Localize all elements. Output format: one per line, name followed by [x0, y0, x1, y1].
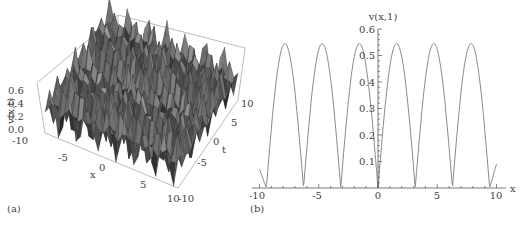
x-tick: 5 [140, 179, 146, 190]
y-tick: 0.4 [359, 77, 375, 88]
x-axis-label: x [90, 169, 96, 180]
x-axis-label: x [510, 183, 516, 194]
surface-plot: 0.6 0.4 0.2 0.0 v(x,t) -10 -5 0 5 10 x 1… [0, 0, 255, 225]
t-tick: 0 [213, 136, 219, 147]
panel-label-a: (a) [7, 203, 21, 214]
y-tick: 0.5 [359, 50, 375, 61]
surface-mesh [45, 0, 238, 186]
t-tick: -10 [178, 193, 194, 204]
y-tick: 0.1 [359, 156, 375, 167]
x-tick: 5 [434, 190, 440, 201]
line-chart: -10 -5 0 5 10 x 0.1 0.2 0.3 0.4 0.5 0.6 … [250, 0, 521, 225]
t-tick: -5 [197, 157, 207, 168]
t-tick: 5 [231, 117, 237, 128]
t-axis-label: t [222, 144, 226, 155]
z-tick: 0.0 [8, 124, 24, 135]
z-axis-label: v(x,t) [5, 98, 16, 125]
x-tick: -10 [12, 135, 28, 146]
y-tick: 0.6 [359, 24, 375, 35]
z-axis: 0.6 0.4 0.2 0.0 v(x,t) [5, 85, 24, 135]
line-chart-panel: -10 -5 0 5 10 x 0.1 0.2 0.3 0.4 0.5 0.6 … [250, 0, 521, 225]
x-tick: 0 [375, 190, 381, 201]
y-tick: 0.3 [359, 103, 375, 114]
x-tick: -10 [250, 190, 265, 201]
panel-label-b: (b) [250, 203, 264, 214]
x-tick: -5 [312, 190, 322, 201]
x-tick: 0 [99, 162, 105, 173]
y-tick: 0.2 [359, 130, 375, 141]
x-tick: -5 [58, 152, 68, 163]
y-axis-label: v(x,1) [368, 11, 398, 22]
x-tick: 10 [490, 190, 503, 201]
surface-plot-panel: 0.6 0.4 0.2 0.0 v(x,t) -10 -5 0 5 10 x 1… [0, 0, 255, 225]
z-tick: 0.6 [8, 85, 24, 96]
x-axis: -10 -5 0 5 10 x [250, 183, 516, 201]
y-axis: 0.1 0.2 0.3 0.4 0.5 0.6 v(x,1) [359, 11, 397, 188]
